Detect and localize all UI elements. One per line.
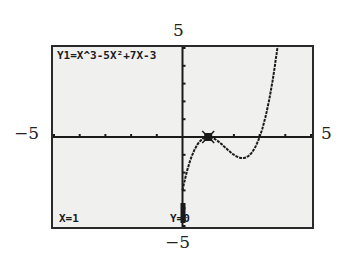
trace-y-value: Y=0 (170, 213, 190, 224)
equation-label: Y1=X^3-5X²+7X-3 (57, 50, 156, 61)
xmin-label: −5 (14, 125, 39, 142)
ymin-label: −5 (165, 234, 190, 251)
function-curve (183, 47, 279, 190)
xmax-label: 5 (321, 125, 332, 142)
graph-plot (53, 47, 312, 227)
trace-x-value: X=1 (59, 213, 79, 224)
calculator-screen: Y1=X^3-5X²+7X-3 X=1 Y=0 (51, 45, 314, 229)
ymax-label: 5 (173, 22, 184, 39)
